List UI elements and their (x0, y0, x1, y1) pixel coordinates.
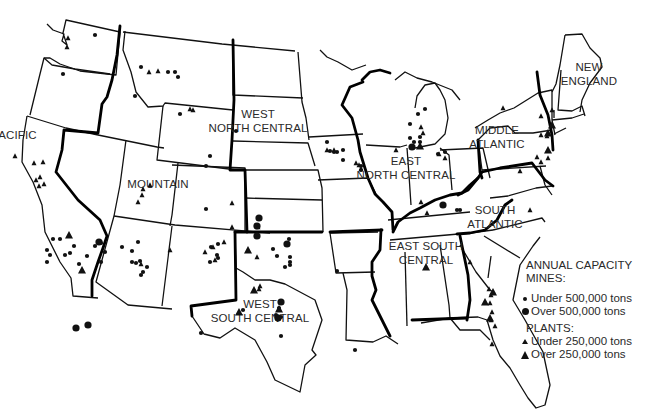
plant-small-marker (156, 68, 161, 73)
mine-small-marker (443, 150, 447, 154)
mine-small-marker (279, 334, 283, 338)
plant-small-marker (140, 192, 145, 197)
mine-small-marker (288, 255, 292, 259)
mine-small-marker (120, 245, 124, 249)
region-label-east-north-central: EASTNORTH CENTRAL (357, 155, 456, 181)
mine-small-marker (130, 260, 134, 264)
mine-small-marker (173, 70, 177, 74)
mine-large-marker (283, 240, 290, 247)
plant-large-marker (250, 286, 258, 294)
legend-item-plant-small: Under 250,000 tons (519, 335, 646, 348)
mine-large-marker (95, 238, 102, 245)
plant-small-marker (222, 239, 227, 244)
mine-small-marker (130, 249, 134, 253)
region-label-west-north-central: WESTNORTH CENTRAL (209, 108, 308, 134)
mine-large-marker (439, 201, 446, 208)
mine-small-marker (283, 265, 287, 269)
region-label-pacific: PACIFIC (0, 129, 37, 141)
plant-small-marker (501, 105, 506, 110)
plant-small-marker (425, 210, 430, 215)
plant-small-marker (41, 159, 46, 164)
mine-small-marker (423, 107, 427, 111)
mine-large-marker (253, 232, 260, 239)
legend-mines-header: MINES: (526, 272, 646, 285)
plant-small-marker (147, 69, 152, 74)
plant-small-marker (65, 44, 70, 49)
region-label-mountain: MOUNTAIN (127, 178, 188, 190)
mine-large-marker (72, 324, 79, 331)
mine-small-marker (234, 129, 238, 133)
mine-small-marker (68, 251, 72, 255)
mine-small-marker (145, 265, 149, 269)
mine-small-marker (51, 237, 55, 241)
mine-small-marker (216, 242, 220, 246)
mine-small-marker (271, 247, 275, 251)
large-triangle-icon (519, 351, 531, 359)
plant-small-marker (354, 160, 359, 165)
mine-small-marker (103, 250, 107, 254)
mine-small-marker (85, 254, 89, 258)
plant-small-marker (539, 113, 544, 118)
mine-large-marker (274, 314, 281, 321)
plant-small-marker (66, 35, 71, 40)
legend-label: Over 250,000 tons (531, 348, 626, 361)
small-triangle-icon (519, 339, 531, 344)
plant-small-marker (443, 155, 448, 160)
plant-small-marker (539, 132, 544, 137)
mine-small-marker (215, 253, 219, 257)
plant-large-marker (481, 298, 489, 306)
mine-small-marker (341, 148, 345, 152)
mine-small-marker (136, 240, 140, 244)
plant-large-marker (65, 231, 73, 239)
mine-small-marker (325, 140, 329, 144)
small-dot-icon (519, 297, 531, 301)
mine-small-marker (416, 112, 420, 116)
mine-small-marker (241, 308, 245, 312)
mine-small-marker (166, 70, 170, 74)
plant-small-marker (550, 107, 555, 112)
legend-item-plant-large: Over 250,000 tons (519, 348, 646, 361)
mine-small-marker (408, 136, 412, 140)
mine-small-marker (208, 260, 212, 264)
plant-small-marker (230, 224, 235, 229)
mine-small-marker (418, 135, 422, 139)
legend-plants-header: PLANTS: (526, 322, 646, 335)
plant-small-marker (539, 159, 544, 164)
plant-small-marker (493, 323, 498, 328)
region-label-south-atlantic: SOUTHATLANTIC (467, 204, 523, 230)
plant-small-marker (528, 207, 533, 212)
plant-small-marker (394, 147, 399, 152)
plant-small-marker (332, 147, 337, 152)
plant-small-marker (546, 155, 551, 160)
legend-item-mine-large: Over 500,000 tons (519, 305, 646, 318)
large-dot-icon (519, 308, 531, 315)
plant-large-marker (78, 266, 86, 274)
mine-small-marker (45, 248, 49, 252)
mine-small-marker (341, 158, 345, 162)
mine-small-marker (77, 262, 81, 266)
mine-small-marker (61, 72, 65, 76)
mine-small-marker (63, 253, 67, 257)
mine-small-marker (93, 33, 97, 37)
plant-small-marker (34, 177, 39, 182)
legend-label: Under 500,000 tons (531, 292, 632, 305)
mine-small-marker (139, 65, 143, 69)
legend: ANNUAL CAPACITY MINES: Under 500,000 ton… (526, 259, 646, 361)
mine-large-marker (255, 214, 262, 221)
plant-small-marker (518, 168, 523, 173)
legend-title: ANNUAL CAPACITY (526, 259, 646, 272)
region-label-east-south-central: EAST SOUTHCENTRAL (389, 240, 463, 266)
plant-large-marker (544, 146, 552, 154)
plant-small-marker (255, 254, 260, 259)
region-label-middle-atlantic: MIDDLEATLANTIC (469, 124, 525, 150)
legend-label: Under 250,000 tons (531, 335, 632, 348)
plant-small-marker (37, 183, 42, 188)
mine-small-marker (72, 244, 76, 248)
mine-small-marker (45, 260, 49, 264)
plant-small-marker (32, 160, 37, 165)
plant-large-marker (416, 142, 424, 150)
plant-small-marker (230, 200, 235, 205)
plant-large-marker (244, 246, 252, 254)
mine-large-marker (84, 321, 91, 328)
plant-small-marker (490, 309, 495, 314)
